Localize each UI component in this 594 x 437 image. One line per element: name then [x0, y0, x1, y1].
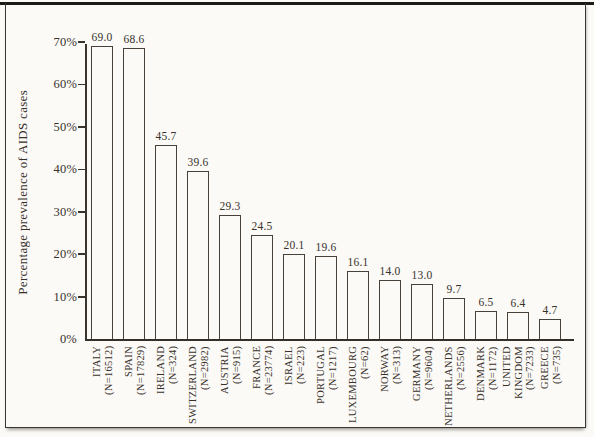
bar-value-label: 39.6 [174, 156, 222, 168]
bar-value-label: 68.6 [110, 33, 158, 45]
country-name: ITALY [91, 346, 103, 430]
y-tick-mark [78, 126, 85, 128]
scanned-page: Percentage prevalence of AIDS cases 0%10… [0, 0, 594, 437]
country-name: FRANCE [251, 346, 263, 430]
bar [539, 319, 561, 339]
bar [123, 48, 145, 339]
bar [379, 280, 401, 339]
country-name: KINGDOM [512, 346, 524, 430]
bar-value-label: 24.5 [238, 220, 286, 232]
y-tick-label: 10% [21, 290, 77, 305]
bar-value-label: 4.7 [526, 304, 574, 316]
bar-value-label: 13.0 [398, 269, 446, 281]
bar-value-label: 9.7 [430, 283, 478, 295]
country-name: PORTUGAL [315, 346, 327, 430]
sample-size-label: (N=735) [550, 346, 562, 430]
y-tick-mark [78, 296, 85, 298]
y-tick-mark [78, 211, 85, 213]
country-name: GREECE [539, 346, 551, 430]
country-name: ISRAEL [283, 346, 295, 430]
bar [155, 145, 177, 339]
bar [187, 171, 209, 339]
bar [347, 271, 369, 339]
country-name: GERMANY [411, 346, 423, 430]
y-tick-mark [78, 253, 85, 255]
country-name: SPAIN [123, 346, 135, 430]
y-tick-label: 20% [21, 247, 77, 262]
y-tick-label: 40% [21, 162, 77, 177]
bar [283, 254, 305, 339]
y-tick-label: 60% [21, 77, 77, 92]
plot-area: 0%10%20%30%40%50%60%70% 69.068.645.739.6… [85, 44, 574, 341]
bar [475, 311, 497, 339]
y-tick-mark [78, 84, 85, 86]
country-name: DENMARK [475, 346, 487, 430]
y-tick-mark [78, 169, 85, 171]
y-axis-line [85, 44, 87, 339]
y-tick-label: 30% [21, 205, 77, 220]
figure-frame: Percentage prevalence of AIDS cases 0%10… [5, 3, 586, 428]
bar-value-label: 29.3 [206, 200, 254, 212]
country-name: UNITED [501, 346, 513, 430]
country-name: SWITZERLAND [187, 346, 199, 430]
y-tick-label: 0% [21, 332, 77, 347]
y-tick-label: 50% [21, 120, 77, 135]
country-name: IRELAND [155, 346, 167, 430]
y-tick-label: 70% [21, 35, 77, 50]
bar [91, 46, 113, 339]
x-axis-label-text: GREECE(N=735) [539, 346, 562, 430]
country-name: AUSTRIA [219, 346, 231, 430]
bar [315, 256, 337, 339]
country-name: NORWAY [379, 346, 391, 430]
bar [219, 215, 241, 339]
country-name: LUXEMBOURG [347, 346, 359, 430]
x-axis-label: GREECE(N=735) [526, 346, 574, 432]
country-name: NETHERLANDS [443, 346, 455, 430]
bar-value-label: 19.6 [302, 241, 350, 253]
bar-value-label: 45.7 [142, 130, 190, 142]
